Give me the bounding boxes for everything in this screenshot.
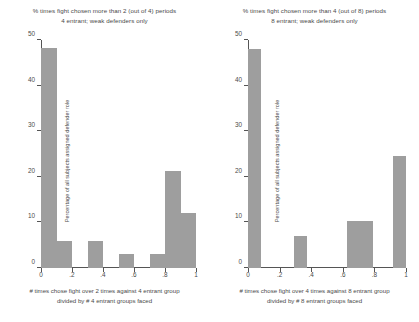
x-tick-label: 1 [194, 271, 198, 278]
chart-panel-right: % times fight chosen more than 4 (out of… [210, 0, 419, 322]
y-tick-label: 10 [28, 212, 35, 219]
histogram-bar [165, 171, 181, 268]
histogram-bar [150, 254, 166, 268]
histogram-bar [248, 49, 261, 268]
figure-two-histograms: % times fight chosen more than 2 (out of… [0, 0, 419, 322]
x-tick-label: .8 [372, 271, 377, 278]
histogram-bar [393, 156, 406, 268]
y-tick-label: 20 [28, 166, 35, 173]
x-axis-label-left-line1: # times chose fight over 2 times against… [29, 287, 179, 294]
histogram-bar [88, 241, 104, 268]
chart-panel-left: % times fight chosen more than 2 (out of… [0, 0, 209, 322]
chart-subtitle-right: 8 entrant; weak defenders only [210, 16, 419, 26]
y-tick-label: 10 [235, 212, 242, 219]
chart-subtitle-left: 4 entrant; weak defenders only [0, 16, 209, 26]
x-axis-label-right-line1: # times chose fight over 4 times against… [239, 287, 389, 294]
histogram-bar [41, 48, 57, 268]
y-tick-label: 0 [31, 258, 35, 265]
x-tick-label: 1 [404, 271, 408, 278]
histogram-bar [57, 241, 73, 268]
x-tick-label: .4 [309, 271, 314, 278]
y-tick-label: 40 [28, 75, 35, 82]
x-tick-label: .6 [340, 271, 345, 278]
y-tick-label: 0 [238, 258, 242, 265]
histogram-bar [294, 236, 307, 268]
y-tick-label: 30 [28, 121, 35, 128]
x-tick-label: .6 [131, 271, 136, 278]
x-axis-label-left-line2: divided by # 4 entrant groups faced [0, 296, 209, 306]
y-tick-label: 50 [235, 30, 242, 37]
x-tick-label: 0 [39, 271, 43, 278]
chart-title-right: % times fight chosen more than 4 (out of… [210, 6, 419, 26]
x-axis-line-right [248, 267, 406, 268]
x-axis-label-right: # times chose fight over 4 times against… [210, 286, 419, 306]
x-tick-label: .4 [100, 271, 105, 278]
x-tick-label: .2 [69, 271, 74, 278]
x-axis-label-left: # times chose fight over 2 times against… [0, 286, 209, 306]
chart-title-right-line1: % times fight chosen more than 4 (out of… [243, 7, 386, 14]
y-tick-label: 40 [235, 75, 242, 82]
x-tick-label: 0 [246, 271, 250, 278]
y-tick-label: 20 [235, 166, 242, 173]
histogram-bar [181, 213, 197, 268]
y-tick-plot-right [244, 39, 248, 40]
plot-area-right: 010203040500.2.4.6.81 [248, 40, 406, 268]
x-tick-label: .2 [277, 271, 282, 278]
chart-title-left-line1: % times fight chosen more than 2 (out of… [33, 7, 176, 14]
plot-area-left: 010203040500.2.4.6.81 [41, 40, 196, 268]
y-tick-label: 30 [235, 121, 242, 128]
chart-title-left: % times fight chosen more than 2 (out of… [0, 6, 209, 26]
histogram-bar [119, 254, 135, 268]
x-axis-label-right-line2: divided by # 8 entrant groups faced [210, 296, 419, 306]
histogram-bar [347, 221, 373, 268]
y-tick-plot-left [37, 39, 41, 40]
x-tick-label: .8 [162, 271, 167, 278]
y-tick-label: 50 [28, 30, 35, 37]
